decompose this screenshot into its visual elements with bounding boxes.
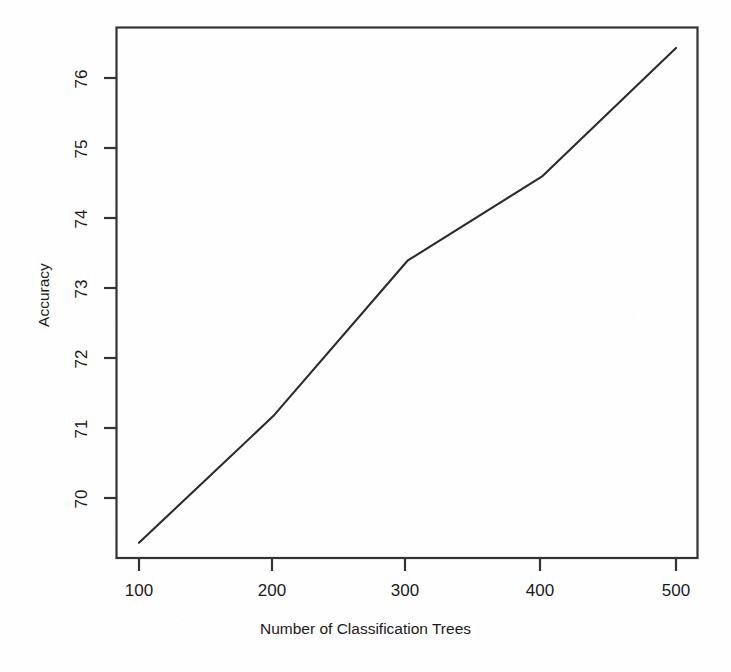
chart-figure: 76 75 74 73 72 71 70 100 200 300 400 500… [0,0,731,672]
x-axis-title: Number of Classification Trees [0,620,731,638]
y-tick-label-72: 72 [72,339,92,379]
plot-area [0,0,731,672]
x-tick-label-300: 300 [380,581,430,601]
y-tick-label-74: 74 [72,199,92,239]
x-axis-ticks [139,558,676,571]
y-tick-label-70: 70 [72,479,92,519]
x-tick-label-200: 200 [247,581,297,601]
x-tick-label-400: 400 [515,581,565,601]
y-tick-label-76: 76 [72,59,92,99]
y-tick-label-73: 73 [72,269,92,309]
x-tick-label-100: 100 [114,581,164,601]
plot-box-border [117,28,698,559]
x-tick-label-500: 500 [651,581,701,601]
y-tick-label-71: 71 [72,409,92,449]
y-axis-ticks [104,78,116,498]
y-axis-title: Accuracy [35,245,53,345]
y-tick-label-75: 75 [72,129,92,169]
accuracy-line-series [139,48,676,543]
